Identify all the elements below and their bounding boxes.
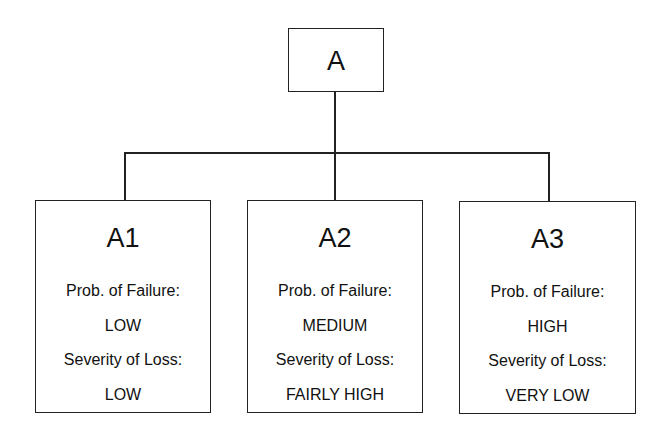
severity-of-loss-value: LOW (36, 387, 210, 403)
prob-of-failure-value: HIGH (460, 319, 635, 335)
child-node-a2: A2 Prob. of Failure: MEDIUM Severity of … (247, 200, 423, 413)
severity-of-loss-label: Severity of Loss: (248, 352, 422, 368)
severity-of-loss-label: Severity of Loss: (36, 352, 210, 368)
connector-a3 (548, 152, 550, 201)
root-connector (334, 92, 336, 153)
child-node-a1: A1 Prob. of Failure: LOW Severity of Los… (35, 200, 211, 413)
branch-bar (125, 152, 550, 154)
node-title: A1 (36, 225, 210, 252)
prob-of-failure-value: MEDIUM (248, 318, 422, 334)
prob-of-failure-value: LOW (36, 318, 210, 334)
connector-a1 (124, 152, 126, 200)
prob-of-failure-label: Prob. of Failure: (460, 284, 635, 300)
child-node-a3: A3 Prob. of Failure: HIGH Severity of Lo… (459, 201, 636, 414)
connector-a2 (334, 152, 336, 200)
root-node-label: A (327, 48, 345, 75)
prob-of-failure-label: Prob. of Failure: (36, 283, 210, 299)
severity-of-loss-value: VERY LOW (460, 388, 635, 404)
root-node: A (288, 28, 384, 92)
node-title: A2 (248, 225, 422, 252)
severity-of-loss-label: Severity of Loss: (460, 353, 635, 369)
severity-of-loss-value: FAIRLY HIGH (248, 387, 422, 403)
prob-of-failure-label: Prob. of Failure: (248, 283, 422, 299)
node-title: A3 (460, 226, 635, 253)
